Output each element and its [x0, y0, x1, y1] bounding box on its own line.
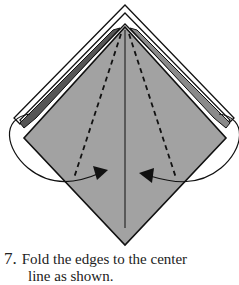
step-text-line1: Fold the edges to the center: [22, 251, 187, 267]
step-caption: 7.Fold the edges to the center line as s…: [4, 250, 239, 285]
step-number: 7.: [4, 249, 17, 268]
step-text-line2: line as shown.: [4, 268, 239, 285]
origami-fold-diagram: [0, 0, 239, 250]
